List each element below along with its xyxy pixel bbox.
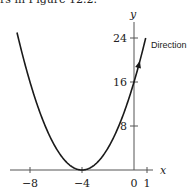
axes bbox=[10, 22, 153, 170]
parabola-chart: −8−40181624 Direction x y bbox=[0, 0, 188, 194]
x-axis-label: x bbox=[160, 164, 167, 177]
x-tick-label: 1 bbox=[144, 177, 151, 190]
x-tick-label: 0 bbox=[131, 177, 138, 190]
y-tick-label: 16 bbox=[113, 76, 127, 89]
parabola-curve bbox=[17, 33, 146, 171]
y-axis-label: y bbox=[129, 8, 137, 21]
direction-label: Direction bbox=[151, 40, 187, 50]
x-tick-label: −8 bbox=[22, 177, 38, 190]
y-tick-label: 24 bbox=[113, 32, 127, 45]
x-tick-label: −4 bbox=[74, 177, 90, 190]
ticks: −8−40181624 bbox=[22, 32, 151, 190]
